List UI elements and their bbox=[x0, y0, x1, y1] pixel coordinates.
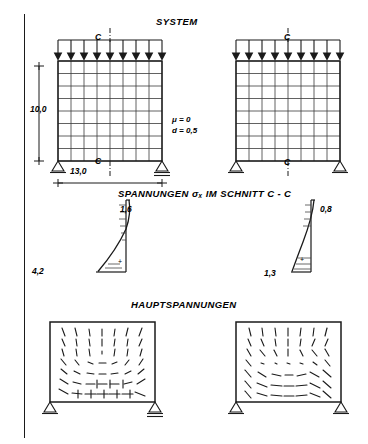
principal-support-right-roller bbox=[147, 402, 163, 417]
mesh-left bbox=[58, 61, 162, 161]
principal-support-left-pin bbox=[42, 402, 58, 414]
stress-sign-plus-right: + bbox=[300, 256, 304, 263]
stress-sign-plus-left: + bbox=[118, 258, 122, 265]
support-left-pin bbox=[50, 161, 66, 173]
left-principal-stress-plot bbox=[44, 318, 174, 430]
section-label-c-bottom-left: C bbox=[95, 156, 101, 166]
left-stress-diagram: + bbox=[96, 200, 176, 280]
load-arrows-right bbox=[233, 40, 344, 60]
section-label-c-top-left: C bbox=[95, 32, 101, 42]
section-label-c-bottom-right: C bbox=[284, 157, 290, 167]
principal-support-right-panel-left-pin bbox=[228, 402, 244, 414]
principal-stress-vectors-right bbox=[245, 328, 331, 398]
width-dimension-label: 13,0 bbox=[70, 166, 87, 176]
left-frame-rule bbox=[24, 14, 25, 438]
stress-hatch-left-lower bbox=[105, 264, 122, 268]
stress-top-value-left: 1,6 bbox=[120, 204, 132, 214]
stress-bottom-value-left: 4,2 bbox=[32, 266, 44, 276]
support-right-panel-left-pin bbox=[228, 161, 244, 173]
parameters-block: μ = 0 d = 0,5 bbox=[172, 114, 197, 136]
section-title-stresses: SPANNUNGEN σₓ IM SCHNITT C - C bbox=[118, 188, 291, 199]
figure-page: SYSTEM bbox=[0, 0, 368, 444]
right-principal-stress-plot bbox=[230, 318, 360, 430]
stress-top-value-right: 0,8 bbox=[320, 204, 332, 214]
left-system-diagram bbox=[28, 28, 188, 178]
load-arrows-left bbox=[55, 40, 166, 60]
support-right-panel-right-pin bbox=[332, 161, 348, 173]
parameter-d: d = 0,5 bbox=[172, 125, 197, 136]
right-system-diagram bbox=[218, 28, 368, 178]
section-title-system: SYSTEM bbox=[156, 16, 197, 27]
right-stress-diagram: + bbox=[283, 200, 353, 280]
principal-support-right-panel-right-pin bbox=[333, 402, 349, 414]
principal-stress-vectors-left bbox=[59, 328, 145, 398]
support-right-roller bbox=[154, 161, 170, 176]
stress-bottom-value-right: 1,3 bbox=[264, 268, 276, 278]
mesh-right bbox=[236, 61, 340, 161]
section-title-principal-stresses: HAUPTSPANNUNGEN bbox=[131, 299, 237, 310]
section-label-c-top-right: C bbox=[284, 32, 290, 42]
height-dimension-label: 10,0 bbox=[30, 104, 47, 114]
parameter-mu: μ = 0 bbox=[172, 114, 197, 125]
